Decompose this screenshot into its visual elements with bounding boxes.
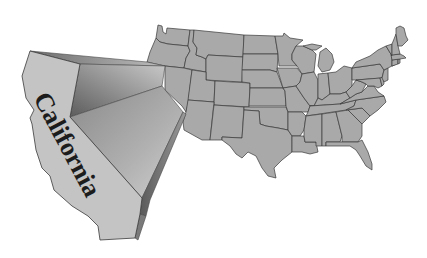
state-montana[interactable] (193, 30, 244, 59)
state-mississippi[interactable] (304, 114, 322, 146)
state-arkansas[interactable] (288, 112, 306, 136)
state-north-dakota[interactable] (243, 35, 278, 54)
state-arizona[interactable] (183, 100, 214, 140)
state-maine[interactable] (396, 26, 408, 46)
state-new-mexico[interactable] (210, 105, 244, 140)
state-south-dakota[interactable] (242, 54, 278, 72)
state-rhode-island[interactable] (398, 59, 400, 64)
state-colorado[interactable] (214, 81, 250, 107)
state-kansas[interactable] (249, 88, 286, 106)
state-wyoming[interactable] (206, 55, 243, 82)
us-map: California (0, 0, 427, 258)
state-florida[interactable] (326, 140, 372, 170)
states-layer (147, 25, 408, 178)
